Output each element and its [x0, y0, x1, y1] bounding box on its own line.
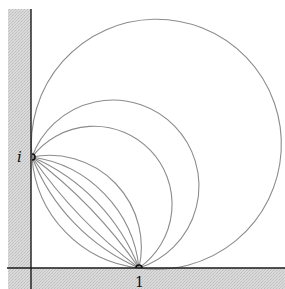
arc-8 — [32, 157, 139, 268]
arc-1 — [31, 19, 281, 269]
arc-10 — [32, 157, 139, 268]
label-one: 1 — [135, 274, 144, 289]
arc-6 — [32, 157, 139, 268]
arc-9 — [32, 157, 139, 268]
arc-family — [31, 19, 281, 269]
bottom-shaded-region — [8, 268, 285, 289]
arc-4 — [32, 155, 141, 268]
pencil-of-circles-diagram: i 1 — [0, 0, 285, 289]
label-i: i — [17, 148, 22, 166]
arc-7 — [32, 157, 139, 268]
arc-5 — [32, 157, 139, 268]
